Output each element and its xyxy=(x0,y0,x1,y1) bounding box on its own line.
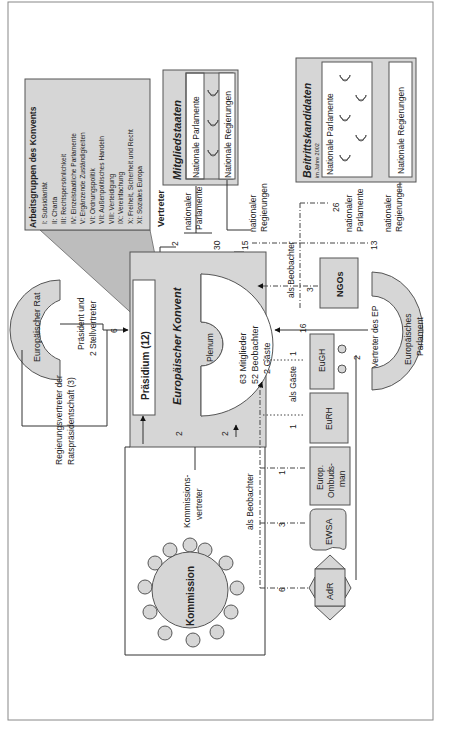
eugh-seat-icon xyxy=(338,365,346,373)
convention-title: Europäischer Konvent xyxy=(171,286,183,405)
nat-gov-count: 15 xyxy=(240,240,250,250)
ep-rep-label: Vertreter des EP xyxy=(370,305,380,368)
ngos-label: NGOs xyxy=(335,271,345,297)
guests-label: als Gäste xyxy=(288,366,298,402)
plenum-members: 63 Mitglieder xyxy=(238,332,248,384)
eugh-seat-icon xyxy=(338,345,346,353)
candidates-gov-count: 13 xyxy=(369,240,379,250)
ombudsman-label-3: man xyxy=(337,470,347,487)
candidates-parl-label-2: Parlamente xyxy=(355,188,365,232)
candidates-parl-label-1: nationaler xyxy=(344,194,354,232)
eurh-count: 1 xyxy=(288,424,298,429)
ombudsman-count: 1 xyxy=(277,470,287,475)
candidates-gov-label-2: Regierungen xyxy=(394,183,404,232)
observers-label: als Beobachter xyxy=(245,473,255,530)
european-council-label: Europäischer Rat xyxy=(32,292,42,362)
ewsa-label: EWSA xyxy=(324,518,334,545)
commission-to-plenum-count: 2 xyxy=(220,431,230,436)
eugh-label: EuGH xyxy=(317,349,327,372)
eugh-count: 1 xyxy=(288,351,298,356)
ep-praesidium-count: 2 xyxy=(352,355,362,360)
ep-name-1: Europäisches xyxy=(403,313,413,365)
commission-rep-label-2: vertreter xyxy=(194,488,204,520)
beitrittskandidaten-title: Beitrittskandidaten xyxy=(301,83,313,178)
beitrittskandidaten-governments-label: Nationale Regierungen xyxy=(396,87,406,174)
vertreter-heading: Vertreter xyxy=(156,189,166,227)
diagram: Beitrittskandidaten im Jahre 2002 Nation… xyxy=(0,0,450,730)
ewsa-count: 3 xyxy=(277,522,287,527)
eurh-label: EuRH xyxy=(324,407,334,430)
commission-label: Kommission xyxy=(185,566,196,626)
ep-name-2: Parlament xyxy=(415,317,425,356)
plenum-label: Plenum xyxy=(205,333,215,362)
ombudsman-label-1: Europ. xyxy=(315,465,325,490)
council-president-label-1: Präsident und xyxy=(76,297,86,350)
nat-parl-plenum-count: 30 xyxy=(212,240,222,250)
plenum-guests: 2 Gäste xyxy=(262,342,272,374)
council-president-count: 6 xyxy=(109,328,119,333)
plenum-observers: 52 Beobachter xyxy=(250,325,260,384)
nat-parl-praesidium-count: 2 xyxy=(170,241,180,246)
nat-parl-label-1: nationaler xyxy=(183,192,193,230)
beitrittskandidaten-subtitle: im Jahre 2002 xyxy=(314,143,320,178)
candidates-observers-label: als Beobachter xyxy=(286,241,296,298)
ombudsman-label-2: Ombuds- xyxy=(326,463,336,498)
commission-to-praesidium-count: 2 xyxy=(174,431,184,436)
adr-count: 6 xyxy=(277,587,287,592)
commission-rep-label-1: Kommissions- xyxy=(182,474,192,528)
council-president-label-2: 2 Stellvertreter xyxy=(88,301,98,356)
ngos-count: 3 xyxy=(305,287,315,292)
candidates-gov-label-1: nationaler xyxy=(383,194,393,232)
nat-gov-label-2: Regierungen xyxy=(259,183,269,232)
beitrittskandidaten-parliaments-label: Nationale Parlamente xyxy=(325,93,335,175)
council-presidency-label-1: Regierungsvertreter der xyxy=(54,375,64,465)
ep-plenum-count: 16 xyxy=(298,323,308,333)
council-presidency-label-2: Ratspräsidentschaft (3) xyxy=(66,377,76,465)
praesidium-label: Präsidium (12) xyxy=(140,331,151,400)
nat-gov-label-1: nationaler xyxy=(248,194,258,232)
adr-label: AdR xyxy=(325,582,335,600)
candidates-parl-count: 26 xyxy=(331,202,341,212)
